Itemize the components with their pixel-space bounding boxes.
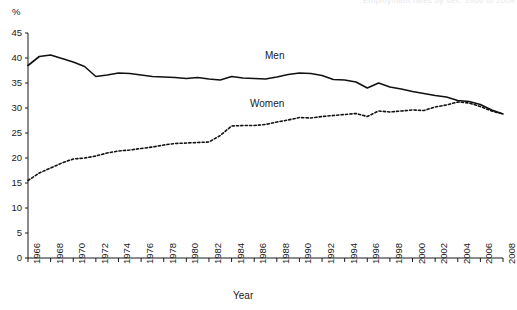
x-tick-label: 1984 <box>236 243 246 264</box>
y-tick-label: 20 <box>2 153 22 163</box>
data-series-group <box>28 55 503 181</box>
faint-header-text: Employment rates by sex, 1966 to 2008 <box>300 0 515 8</box>
y-axis-unit-label: % <box>12 6 20 17</box>
x-tick-label: 1978 <box>168 243 178 264</box>
x-tick-label: 1994 <box>349 243 359 264</box>
x-tick-label: 2004 <box>462 243 472 264</box>
y-tick-label: 25 <box>2 128 22 138</box>
series-line-women <box>28 102 503 181</box>
x-tick-label: 2006 <box>484 243 494 264</box>
x-tick-label: 1996 <box>371 243 381 264</box>
y-tick-label: 35 <box>2 78 22 88</box>
x-tick-label: 1972 <box>100 243 110 264</box>
x-tick-label: 1980 <box>190 243 200 264</box>
x-tick-label: 1966 <box>32 243 42 264</box>
x-tick-label: 1990 <box>303 243 313 264</box>
y-tick-label: 10 <box>2 203 22 213</box>
y-tick-label: 40 <box>2 53 22 63</box>
x-tick-label: 1974 <box>122 243 132 264</box>
x-axis-title: Year <box>233 290 253 301</box>
y-tick-label: 5 <box>2 228 22 238</box>
x-tick-label: 2000 <box>417 243 427 264</box>
x-tick-label: 1970 <box>77 243 87 264</box>
y-tick-label: 30 <box>2 103 22 113</box>
x-tick-label: 1968 <box>55 243 65 264</box>
axis-lines <box>25 33 503 262</box>
y-tick-label: 45 <box>2 28 22 38</box>
x-tick-label: 1998 <box>394 243 404 264</box>
x-tick-label: 1986 <box>258 243 268 264</box>
y-tick-label: 15 <box>2 178 22 188</box>
x-tick-label: 2008 <box>507 243 517 264</box>
x-tick-label: 1992 <box>326 243 336 264</box>
x-tick-label: 2002 <box>439 243 449 264</box>
series-label-men: Men <box>265 50 284 61</box>
y-tick-label: 0 <box>2 253 22 263</box>
series-label-women: Women <box>250 98 284 109</box>
x-tick-label: 1988 <box>281 243 291 264</box>
x-tick-label: 1982 <box>213 243 223 264</box>
x-tick-label: 1976 <box>145 243 155 264</box>
